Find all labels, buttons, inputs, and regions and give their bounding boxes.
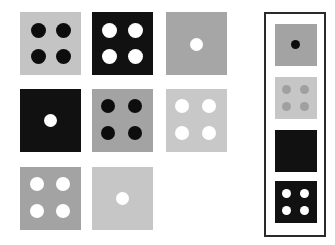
grid-cell-r2c3 — [166, 89, 227, 152]
dot — [56, 204, 70, 218]
dot — [202, 126, 216, 140]
dot — [175, 99, 189, 113]
grid-cell-r3c2 — [92, 167, 153, 230]
dot — [101, 126, 115, 140]
dot — [282, 189, 291, 198]
answer-option-4[interactable] — [275, 181, 317, 223]
grid-cell-r3c3-missing — [166, 167, 227, 230]
answer-option-3[interactable] — [275, 130, 317, 172]
dot — [190, 38, 203, 51]
dot — [128, 49, 143, 64]
dot — [291, 40, 300, 49]
dot — [56, 177, 70, 191]
grid-cell-r1c3 — [166, 12, 227, 75]
dot — [101, 99, 115, 113]
grid-cell-r1c1 — [20, 12, 81, 75]
dot — [128, 126, 142, 140]
dot — [56, 49, 71, 64]
dot — [175, 126, 189, 140]
grid-cell-r3c1 — [20, 167, 81, 230]
dot — [102, 49, 117, 64]
dot — [44, 114, 57, 127]
dot — [102, 23, 117, 38]
dot — [128, 99, 142, 113]
answer-options-panel — [264, 12, 326, 237]
dot — [282, 102, 291, 111]
grid-cell-r1c2 — [92, 12, 153, 75]
dot — [31, 23, 46, 38]
dot — [31, 49, 46, 64]
dot — [300, 102, 309, 111]
dot — [30, 177, 44, 191]
dot — [300, 189, 309, 198]
dot — [202, 99, 216, 113]
dot — [282, 206, 291, 215]
dot — [128, 23, 143, 38]
dot — [116, 192, 129, 205]
dot — [56, 23, 71, 38]
grid-cell-r2c2 — [92, 89, 153, 152]
dot — [282, 85, 291, 94]
dot — [300, 85, 309, 94]
dot — [300, 206, 309, 215]
answer-option-2[interactable] — [275, 77, 317, 119]
grid-cell-r2c1 — [20, 89, 81, 152]
answer-option-1[interactable] — [275, 24, 317, 66]
dot — [30, 204, 44, 218]
